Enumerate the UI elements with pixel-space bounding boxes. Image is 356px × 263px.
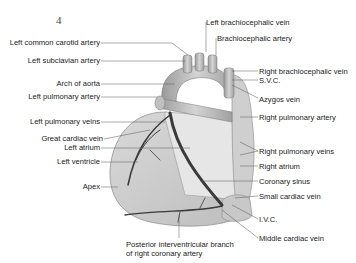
label-right-pulmonary-artery: Right pulmonary artery <box>259 113 336 122</box>
label-left-atrium: Left atrium <box>64 143 100 152</box>
label-great-cardiac-vein: Great cardiac vein <box>41 134 103 143</box>
label-brachiocephalic-artery: Brachiocephalic artery <box>217 34 292 43</box>
label-left-pulmonary-artery: Left pulmonary artery <box>28 92 100 101</box>
label-apex: Apex <box>83 182 100 191</box>
label-left-pulmonary-veins: Left pulmonary veins <box>30 117 100 126</box>
aortic-arch-shape <box>162 53 234 103</box>
label-left-subclavian-artery: Left subclavian artery <box>28 56 100 65</box>
label-right-pulmonary-veins: Right pulmonary veins <box>259 147 334 156</box>
label-posterior-interventricular-branch-line1: Posterior interventricular branch <box>126 240 234 249</box>
ivc-shape <box>222 195 252 221</box>
label-left-common-carotid-artery: Left common carotid artery <box>10 38 100 47</box>
label-azygos-vein: Azygos vein <box>259 95 300 104</box>
label-posterior-interventricular-branch-line2: of right coronary artery <box>126 249 202 258</box>
label-middle-cardiac-vein: Middle cardiac vein <box>259 234 324 243</box>
label-ivc: I.V.C. <box>259 215 277 224</box>
label-arch-of-aorta: Arch of aorta <box>57 79 100 88</box>
label-svc: S.V.C. <box>259 76 280 85</box>
label-coronary-sinus: Coronary sinus <box>259 177 310 186</box>
label-left-ventricle: Left ventricle <box>57 157 100 166</box>
label-small-cardiac-vein: Small cardiac vein <box>259 192 321 201</box>
label-right-brachiocephalic-vein: Right brachiocephalic vein <box>259 67 348 76</box>
label-right-atrium: Right atrium <box>259 162 300 171</box>
label-left-brachiocephalic-vein: Left brachiocephalic vein <box>206 18 290 27</box>
